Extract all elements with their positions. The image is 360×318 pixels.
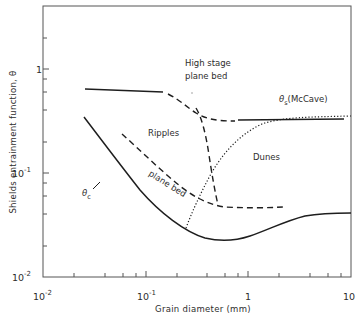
label-theta-s-mccave: θs(McCave) [279,94,328,107]
label-lower-plane-bed: plane bed [147,168,188,199]
upper-plane-bed-line-coarse [238,119,344,120]
ripples-dunes-boundary [196,108,218,205]
x-tick-label-10: 10 [343,291,355,302]
stray-mark [191,92,193,94]
upper-plane-bed-transition-dashed [168,94,235,121]
x-tick-label-0.01: 10-2 [33,289,52,302]
x-tick-label-1: 1 [245,291,251,302]
label-dunes: Dunes [253,152,281,162]
chart-canvas: 10-2 10-1 1 10-2 10-1 1 10 Grain diamete… [0,0,360,318]
y-axis-ticks [43,38,49,246]
y-axis-title: Shields entrainment function, θ [8,70,18,213]
theta-c-leader [93,182,100,189]
label-high-stage-plane-bed: plane bed [185,71,227,81]
x-axis-title: Grain diameter (mm) [155,304,251,314]
upper-plane-bed-line-fine [85,89,163,92]
y-tick-label-1: 1 [36,64,42,75]
label-ripples: Ripples [148,128,180,138]
label-theta-c: θc [82,188,91,201]
theta-s-mccave-curve [186,116,351,228]
label-high-stage: High stage [185,58,231,68]
y-tick-label-0.01: 10-2 [12,270,31,283]
plot-frame [43,6,351,277]
x-axis-ticks [74,271,341,277]
x-tick-labels: 10-2 10-1 1 10 [33,289,355,302]
x-tick-label-0.1: 10-1 [137,289,156,302]
